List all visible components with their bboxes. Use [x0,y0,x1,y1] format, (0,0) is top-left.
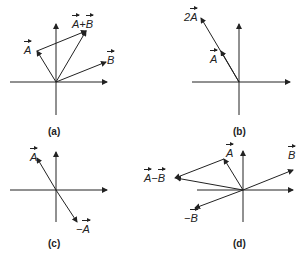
panel-b-caption: (b) [233,126,246,137]
panel-b-axes [192,24,290,115]
vector-diagram: A A+B B (a) 2A A (b) A −A (c) A A−B B −B… [0,0,308,256]
vector-neg-a-label: −A [76,219,90,235]
vector-a-label: A [226,143,233,159]
vector-a-label: A [30,147,37,163]
vector-diff-label: A−B [144,168,165,184]
vector-neg-b-label: −B [184,208,198,224]
panel-b-vectors [201,18,239,82]
vector-a-label: A [24,40,31,56]
vector-diagram-graphics [0,0,308,256]
vector-2a-label: 2A [184,7,197,23]
panel-c-axes [10,152,107,222]
panel-c-caption: (c) [48,238,60,249]
panel-d-caption: (d) [233,238,246,249]
panel-a-vectors [37,31,106,82]
vector-b-label: B [288,145,295,161]
vector-a-label: A [210,49,217,65]
panel-a-axes [10,24,107,115]
panel-a-caption: (a) [48,126,60,137]
panel-d-axes [197,151,293,222]
panel-d-vectors [175,159,293,208]
vector-sum-label: A+B [72,14,93,30]
vector-b-label: B [107,50,114,66]
